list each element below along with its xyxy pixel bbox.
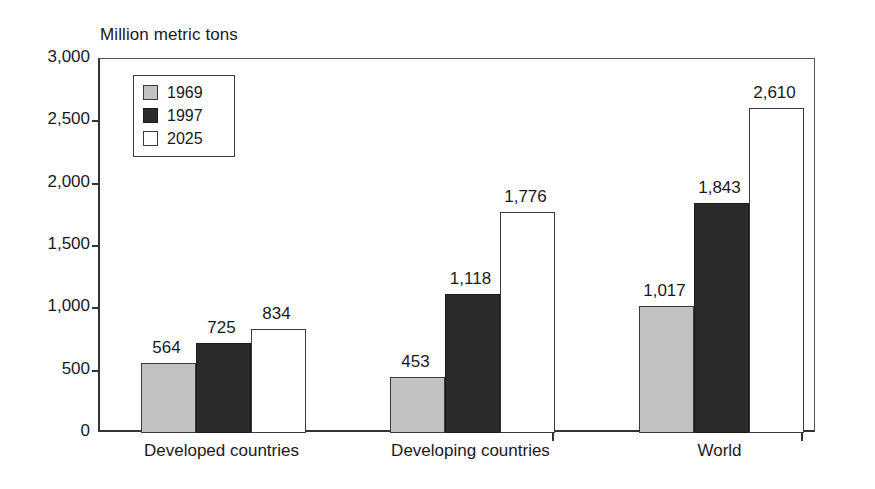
legend-item-2025: 2025 [143,127,234,150]
y-axis-tick [92,120,100,122]
bar-value-label: 1,843 [678,178,761,198]
legend-item-1969: 1969 [143,81,234,104]
bar-1997-world [694,203,749,433]
y-axis-tick-label: 2,500 [2,109,90,129]
legend-swatch-icon [143,108,158,123]
bar-2025-developing-countries [500,212,555,433]
bar-2025-developed-countries [251,329,306,433]
y-axis-title: Million metric tons [100,25,238,45]
bar-value-label: 564 [125,338,208,358]
y-axis-tick [92,183,100,185]
legend-item-1997: 1997 [143,104,234,127]
bar-value-label: 1,017 [623,281,706,301]
x-axis-separator-tick [552,432,554,441]
bar-1969-developing-countries [390,377,445,433]
y-axis-tick-label: 2,000 [2,172,90,192]
legend-item-label: 2025 [167,131,203,147]
y-axis-labels: 3,0002,5002,0001,5001,0005000 [0,0,90,489]
bar-value-label: 453 [374,352,457,372]
y-axis-tick-label: 1,500 [2,234,90,254]
y-axis-tick [92,370,100,372]
bar-1969-developed-countries [141,363,196,433]
legend-item-label: 1969 [167,85,203,101]
bar-2025-world [749,108,804,433]
legend-swatch-icon [143,131,158,146]
y-axis-tick [92,307,100,309]
bar-value-label: 2,610 [733,83,816,103]
bar-value-label: 834 [235,304,318,324]
bar-chart: Million metric tons 3,0002,5002,0001,500… [0,0,875,489]
y-axis-tick-label: 500 [2,359,90,379]
legend: 196919972025 [133,75,235,157]
x-axis-category-label: Developed countries [92,441,352,461]
y-axis-tick-label: 0 [2,421,90,441]
y-axis-tick-label: 3,000 [2,47,90,67]
legend-item-label: 1997 [167,108,203,124]
y-axis-tick-label: 1,000 [2,296,90,316]
x-axis-category-label: Developing countries [341,441,601,461]
bar-1969-world [639,306,694,433]
x-axis-separator-tick [801,432,803,441]
x-axis-category-label: World [590,441,850,461]
bar-value-label: 1,776 [484,187,567,207]
legend-swatch-icon [143,85,158,100]
bar-value-label: 1,118 [429,269,512,289]
y-axis-tick [92,245,100,247]
